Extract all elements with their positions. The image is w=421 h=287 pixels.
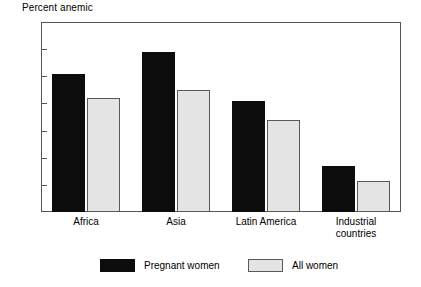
bar-all-1 [177, 90, 210, 212]
legend-item-1: All women [248, 259, 338, 272]
anemia-bar-chart: Percent anemic 010203040506070 AfricaAsi… [0, 0, 421, 287]
bar-all-0 [87, 98, 120, 212]
legend-label-1: All women [292, 260, 338, 272]
bar-all-2 [267, 120, 300, 212]
bar-pregnant-3 [322, 166, 355, 212]
legend-label-0: Pregnant women [144, 260, 220, 272]
x-axis-label-0: Africa [41, 216, 131, 228]
legend-swatch-pregnant [100, 259, 135, 272]
bar-pregnant-0 [52, 74, 85, 212]
legend-item-0: Pregnant women [100, 259, 220, 272]
chart-legend: Pregnant womenAll women [0, 259, 421, 279]
bar-pregnant-2 [232, 101, 265, 212]
legend-swatch-all [248, 259, 283, 272]
bar-all-3 [357, 181, 390, 212]
x-axis-label-1: Asia [131, 216, 221, 228]
x-axis-label-2: Latin America [221, 216, 311, 228]
bars-layer [0, 0, 421, 287]
x-axis-label-3: Industrial countries [311, 216, 401, 239]
bar-pregnant-1 [142, 52, 175, 212]
